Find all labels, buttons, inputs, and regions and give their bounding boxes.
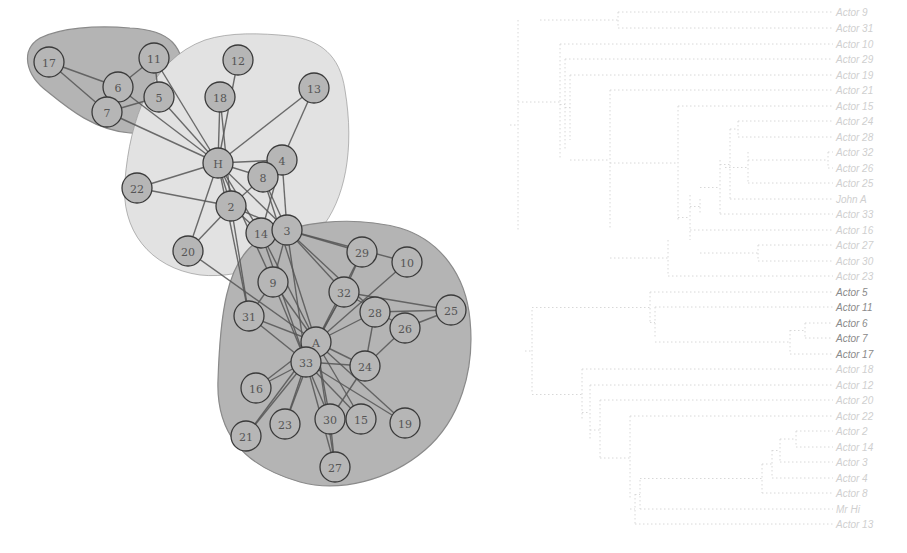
node-label: 25 bbox=[444, 305, 458, 318]
node-10[interactable]: 10 bbox=[392, 247, 422, 277]
node-15[interactable]: 15 bbox=[346, 404, 376, 434]
node-27[interactable]: 27 bbox=[320, 452, 350, 482]
node-label: 5 bbox=[156, 92, 163, 105]
node-H[interactable]: H bbox=[203, 148, 233, 178]
dendro-leaf-label: Actor 33 bbox=[835, 209, 874, 220]
dendro-leaf-label: John A bbox=[835, 194, 867, 205]
node-label: 6 bbox=[115, 82, 122, 95]
dendro-leaf-label: Actor 7 bbox=[835, 333, 868, 344]
node-label: A bbox=[311, 337, 321, 350]
node-label: 28 bbox=[368, 307, 382, 320]
dendro-leaf-label: Actor 3 bbox=[835, 457, 868, 468]
dendrogram-links bbox=[510, 12, 833, 524]
node-5[interactable]: 5 bbox=[144, 82, 174, 112]
dendro-leaf-label: Actor 17 bbox=[835, 349, 874, 360]
node-32[interactable]: 32 bbox=[329, 277, 359, 307]
node-label: 9 bbox=[270, 277, 277, 290]
node-24[interactable]: 24 bbox=[350, 351, 380, 381]
node-label: 21 bbox=[239, 431, 253, 444]
node-label: 20 bbox=[181, 246, 195, 259]
node-label: 30 bbox=[323, 414, 337, 427]
node-label: 11 bbox=[147, 53, 161, 66]
node-label: 4 bbox=[279, 155, 286, 168]
node-14[interactable]: 14 bbox=[246, 218, 276, 248]
dendro-leaf-label: Actor 20 bbox=[835, 395, 874, 406]
node-label: 10 bbox=[400, 257, 414, 270]
node-label: 3 bbox=[284, 225, 291, 238]
node-23[interactable]: 23 bbox=[270, 409, 300, 439]
dendro-leaf-label: Actor 10 bbox=[835, 39, 874, 50]
node-7[interactable]: 7 bbox=[92, 97, 122, 127]
node-2[interactable]: 2 bbox=[216, 191, 246, 221]
dendro-leaf-label: Actor 5 bbox=[835, 287, 868, 298]
node-label: 32 bbox=[337, 287, 351, 300]
node-label: 17 bbox=[42, 57, 56, 70]
dendro-leaf-label: Actor 27 bbox=[835, 240, 874, 251]
node-label: H bbox=[213, 158, 223, 171]
dendro-leaf-label: Actor 22 bbox=[835, 411, 874, 422]
dendro-leaf-label: Actor 14 bbox=[835, 442, 874, 453]
node-25[interactable]: 25 bbox=[436, 295, 466, 325]
node-label: 16 bbox=[249, 383, 263, 396]
node-label: 2 bbox=[228, 201, 235, 214]
node-label: 31 bbox=[242, 311, 256, 324]
dendro-leaf-label: Actor 19 bbox=[835, 70, 874, 81]
dendro-leaf-label: Actor 24 bbox=[835, 116, 874, 127]
dendro-leaf-label: Actor 13 bbox=[835, 519, 874, 530]
network-graph: 1761157121813H4822214320291093228252631A… bbox=[0, 0, 500, 553]
dendro-leaf-label: Actor 21 bbox=[835, 85, 873, 96]
node-label: 33 bbox=[299, 357, 313, 370]
dendro-leaf-label: Actor 29 bbox=[835, 54, 874, 65]
node-9[interactable]: 9 bbox=[258, 267, 288, 297]
node-label: 12 bbox=[231, 55, 245, 68]
dendro-leaf-label: Actor 11 bbox=[835, 302, 873, 313]
dendro-leaf-label: Actor 8 bbox=[835, 488, 868, 499]
node-18[interactable]: 18 bbox=[205, 82, 235, 112]
node-19[interactable]: 19 bbox=[390, 408, 420, 438]
dendro-leaf-label: Actor 31 bbox=[835, 23, 873, 34]
node-33[interactable]: 33 bbox=[291, 347, 321, 377]
dendro-leaf-label: Mr Hi bbox=[836, 504, 861, 515]
dendro-leaf-label: Actor 32 bbox=[835, 147, 874, 158]
node-16[interactable]: 16 bbox=[241, 373, 271, 403]
node-12[interactable]: 12 bbox=[223, 45, 253, 75]
dendro-leaf-label: Actor 4 bbox=[835, 473, 868, 484]
dendro-leaf-label: Actor 23 bbox=[835, 271, 874, 282]
node-label: 22 bbox=[130, 183, 144, 196]
node-label: 15 bbox=[354, 414, 368, 427]
node-31[interactable]: 31 bbox=[234, 301, 264, 331]
node-label: 14 bbox=[254, 228, 268, 241]
node-17[interactable]: 17 bbox=[34, 47, 64, 77]
node-label: 8 bbox=[260, 172, 267, 185]
node-label: 18 bbox=[213, 92, 227, 105]
node-label: 13 bbox=[307, 83, 321, 96]
node-20[interactable]: 20 bbox=[173, 236, 203, 266]
dendro-leaf-label: Actor 9 bbox=[835, 7, 868, 18]
node-3[interactable]: 3 bbox=[272, 215, 302, 245]
node-label: 24 bbox=[358, 361, 372, 374]
node-29[interactable]: 29 bbox=[347, 237, 377, 267]
node-26[interactable]: 26 bbox=[390, 313, 420, 343]
dendro-leaf-label: Actor 15 bbox=[835, 101, 874, 112]
node-label: 27 bbox=[328, 462, 342, 475]
dendro-leaf-label: Actor 26 bbox=[835, 163, 874, 174]
node-30[interactable]: 30 bbox=[315, 404, 345, 434]
dendro-leaf-label: Actor 25 bbox=[835, 178, 874, 189]
dendro-leaf-label: Actor 28 bbox=[835, 132, 874, 143]
dendro-leaf-label: Actor 18 bbox=[835, 364, 874, 375]
node-28[interactable]: 28 bbox=[360, 297, 390, 327]
node-label: 29 bbox=[355, 247, 369, 260]
dendro-leaf-label: Actor 2 bbox=[835, 426, 868, 437]
node-11[interactable]: 11 bbox=[139, 43, 169, 73]
node-22[interactable]: 22 bbox=[122, 173, 152, 203]
dendro-leaf-label: Actor 6 bbox=[835, 318, 868, 329]
dendro-leaf-label: Actor 30 bbox=[835, 256, 874, 267]
dendrogram: Actor 9Actor 31Actor 10Actor 29Actor 19A… bbox=[500, 0, 907, 553]
node-label: 26 bbox=[398, 323, 412, 336]
node-label: 23 bbox=[278, 419, 292, 432]
node-8[interactable]: 8 bbox=[248, 162, 278, 192]
dendrogram-leaves: Actor 9Actor 31Actor 10Actor 29Actor 19A… bbox=[835, 7, 874, 530]
node-21[interactable]: 21 bbox=[231, 421, 261, 451]
dendro-leaf-label: Actor 16 bbox=[835, 225, 874, 236]
node-13[interactable]: 13 bbox=[299, 73, 329, 103]
